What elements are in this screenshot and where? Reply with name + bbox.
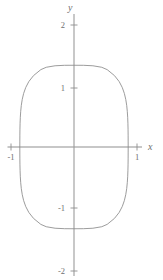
y-tick-label-minus-2: -2 [43,267,65,276]
x-axis-label: x [148,142,152,152]
y-tick-label-2: 2 [43,21,65,30]
y-tick-label-minus-1: -1 [43,204,65,213]
y-tick-label-1: 1 [43,84,65,93]
plot-canvas [0,0,163,280]
x-tick-label-1: 1 [127,153,147,162]
x-tick-label-minus-1: -1 [1,153,21,162]
y-axis-label: y [68,3,72,13]
plot-figure: 2 1 -1 -2 -1 1 y x [0,0,163,280]
